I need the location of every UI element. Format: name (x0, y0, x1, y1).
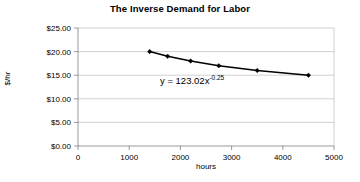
data-point (147, 49, 152, 54)
y-tick-labels: $25.00 $20.00 $15.00 $10.00 $5.00 $0.00 (47, 24, 72, 151)
trendline-equation: y = 123.02x-0.25 (160, 75, 224, 86)
x-axis-title: hours (78, 162, 334, 171)
y-tick-label: $25.00 (47, 24, 72, 33)
y-tick-label: $15.00 (47, 71, 72, 80)
y-tick-marks (74, 28, 78, 146)
x-tick-label: 0 (76, 153, 81, 162)
y-tick-label: $5.00 (51, 118, 72, 127)
x-tick-label: 1000 (120, 153, 138, 162)
data-point (306, 73, 311, 78)
data-point (188, 59, 193, 64)
y-tick-label: $10.00 (47, 95, 72, 104)
data-point (165, 54, 170, 59)
equation-exponent: -0.25 (209, 74, 224, 81)
y-tick-label: $0.00 (51, 142, 72, 151)
data-series-line (150, 52, 309, 76)
x-tick-labels: 0 1000 2000 3000 4000 5000 (76, 153, 344, 162)
data-point (255, 68, 260, 73)
equation-base: y = 123.02x (160, 75, 209, 86)
x-tick-label: 2000 (172, 153, 190, 162)
x-tick-marks (78, 146, 334, 150)
data-point (217, 63, 222, 68)
y-tick-label: $20.00 (47, 48, 72, 57)
chart-container: The Inverse Demand for Labor $/hr (0, 0, 360, 182)
x-tick-label: 5000 (325, 153, 343, 162)
plot-area: $25.00 $20.00 $15.00 $10.00 $5.00 $0.00 … (0, 0, 360, 182)
x-tick-label: 3000 (223, 153, 241, 162)
x-tick-label: 4000 (274, 153, 292, 162)
